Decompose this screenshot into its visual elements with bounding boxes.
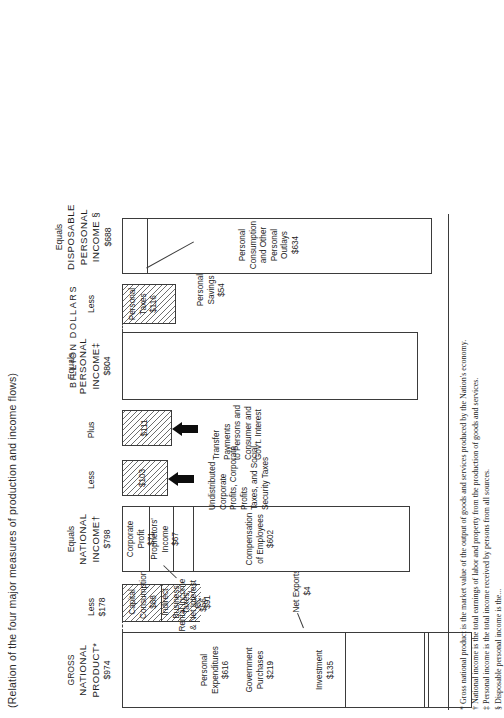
plus-ni-heading: Plus: [86, 408, 97, 452]
gnp-bar: [122, 632, 472, 708]
dpi-heading-main3: INCOME §: [90, 212, 101, 262]
less-gnp-item-capital-consumption: Capital Consumption $88: [128, 585, 160, 619]
pi-heading: Equals PERSONAL INCOME‡ $804: [66, 326, 113, 406]
chart-canvas: (Relation of the four major measures of …: [0, 0, 504, 718]
dpi-item-personal-savings: Personal Savings $54: [196, 262, 228, 318]
gnp-item-personal-expenditures: Personal Expenditures $616: [200, 634, 232, 706]
ni-heading-main: NATIONAL: [77, 513, 88, 564]
dpi-heading-main2: PERSONAL: [78, 209, 89, 265]
less-ni-connector: Less: [86, 471, 96, 489]
plus-ni-amount: $111: [140, 410, 151, 446]
gnp-heading-pre: GROSS: [66, 654, 76, 685]
ni-item-compensation-of-employees: Compensation of Employees $602: [245, 509, 277, 569]
less-ni-amount: $103: [138, 460, 149, 496]
gnp-seg-personal: [123, 633, 345, 707]
gnp-ni-tie: [122, 620, 123, 632]
plus-ni-arrow-icon: [172, 422, 202, 436]
footnotes: * Gross national product is the market v…: [458, 212, 504, 710]
chart-title: (Relation of the four major measures of …: [6, 238, 18, 708]
pi-amount: $804: [102, 356, 112, 375]
less-gnp-connector: Less: [86, 598, 96, 616]
footnote-ni: † National income is the total earnings …: [470, 212, 482, 710]
ni-item-proprietors-income: Proprietors' Income $67: [150, 509, 182, 569]
dpi-heading: Equals DISPOSABLE PERSONAL INCOME § $688: [54, 194, 114, 280]
less-pi-label: Personal Taxes $116: [128, 284, 160, 324]
plus-ni-annotation: Transfer Payments to Persons and Consume…: [212, 394, 265, 460]
ni-heading-pre: Equals: [66, 526, 76, 552]
dpi-heading-main: DISPOSABLE: [65, 204, 76, 270]
gnp-heading-main: NATIONAL: [77, 644, 88, 695]
gnp-amount: $974: [102, 660, 112, 679]
plus-ni-connector: Plus: [86, 422, 96, 439]
pi-heading-pre: Equals: [66, 353, 76, 379]
less-gnp-amount: $178: [97, 597, 107, 616]
ni-heading: Equals NATIONAL INCOME† $798: [66, 500, 113, 578]
ni-seg-compensation: [193, 507, 411, 571]
less-pi-heading: Less: [86, 282, 97, 326]
pi-dpi-tie: [122, 322, 123, 332]
gnp-item-government-purchases: Government Purchases $219: [245, 634, 277, 706]
baseline-rule: [448, 214, 449, 710]
dpi-seg-savings: [123, 219, 147, 273]
pi-heading-main: PERSONAL: [77, 338, 88, 394]
pi-bar: [122, 332, 418, 400]
footnote-dpi: § Disposable personal income is the...: [493, 212, 504, 710]
gnp-seg-government: [345, 633, 424, 707]
pi-heading-main2: INCOME‡: [90, 342, 101, 389]
footnote-gnp: * Gross national product is the market v…: [458, 212, 470, 710]
less-pi-connector: Less: [86, 295, 96, 313]
dpi-item-personal-consumption: Personal Consumption and Other Personal …: [238, 220, 301, 270]
dpi-heading-pre: Equals: [54, 224, 64, 250]
gnp-heading: GROSS NATIONAL PRODUCT* $974: [66, 628, 113, 712]
ni-item-rental-income: Rental Income & Net Interest $56: [178, 576, 210, 634]
footnote-pi: ‡ Personal income is the total income re…: [481, 212, 493, 710]
ni-heading-main2: INCOME†: [90, 515, 101, 562]
less-ni-heading: Less: [86, 458, 97, 502]
gnp-heading-main2: PRODUCT*: [90, 642, 101, 697]
less-ni-arrow-icon: [168, 472, 198, 486]
dpi-amount: $688: [103, 227, 113, 246]
less-gnp-heading: Less $178: [86, 584, 108, 630]
ni-amount: $798: [102, 529, 112, 548]
rotated-chart: (Relation of the four major measures of …: [0, 0, 504, 718]
gnp-item-investment: Investment $135: [315, 634, 336, 706]
